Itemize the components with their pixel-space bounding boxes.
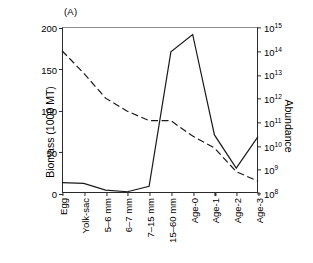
right-axis-tick: 109 bbox=[257, 164, 310, 176]
right-axis-tick: 1014 bbox=[257, 46, 310, 58]
left-axis-tick: 100 bbox=[17, 106, 63, 117]
left-axis-tick: 0 bbox=[17, 189, 63, 200]
x-tick-label: Age-0 bbox=[188, 198, 199, 223]
x-tick-label: 7–15 mm bbox=[145, 198, 156, 238]
x-tick-label: 15–60 mm bbox=[166, 198, 177, 243]
x-tick-label: Age-2 bbox=[232, 198, 243, 223]
x-tick-label: 5–6 mm bbox=[101, 198, 112, 232]
figure-panel-a: (A) Biomass (1000 MT) Abundance 05010015… bbox=[0, 0, 313, 263]
right-axis-tick: 1011 bbox=[257, 117, 310, 129]
panel-label: (A) bbox=[64, 6, 77, 17]
left-axis-tick: 150 bbox=[17, 64, 63, 75]
x-tick-label: Egg bbox=[58, 198, 69, 215]
right-axis-tick: 108 bbox=[257, 188, 310, 200]
right-axis-tick: 1015 bbox=[257, 22, 310, 34]
series-layer bbox=[62, 27, 258, 193]
right-axis-tick: 1013 bbox=[257, 69, 310, 81]
x-tick-mark bbox=[258, 192, 259, 196]
x-tick-label: Age-1 bbox=[210, 198, 221, 223]
right-axis-tick: 1012 bbox=[257, 93, 310, 105]
left-axis-tick: 50 bbox=[17, 147, 63, 158]
x-tick-label: Yolk-sac bbox=[79, 198, 90, 234]
biomass-line bbox=[62, 34, 258, 191]
right-axis-tick: 1010 bbox=[257, 140, 310, 152]
left-axis-title: Biomass (1000 MT) bbox=[44, 86, 56, 178]
x-tick-label: 6–7 mm bbox=[123, 198, 134, 232]
left-axis-tick: 200 bbox=[17, 23, 63, 34]
x-tick-label: Age-3 bbox=[254, 198, 265, 223]
